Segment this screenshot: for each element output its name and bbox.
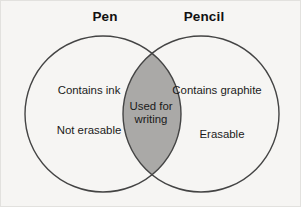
intersection-item-line-2: writing	[135, 113, 168, 125]
right-set-title: Pencil	[184, 9, 225, 24]
left-set-item-contains-ink: Contains ink	[58, 84, 121, 97]
left-set-item-not-erasable: Not erasable	[57, 124, 122, 137]
venn-diagram-figure: Pen Pencil Contains ink Not erasable Use…	[0, 0, 301, 207]
right-set-item-erasable: Erasable	[200, 128, 245, 141]
right-set-item-contains-graphite: Contains graphite	[172, 84, 261, 97]
left-set-title: Pen	[92, 9, 117, 24]
intersection-item-line-1: Used for	[129, 100, 172, 112]
intersection-item-used-for-writing: Used for writing	[120, 100, 182, 126]
